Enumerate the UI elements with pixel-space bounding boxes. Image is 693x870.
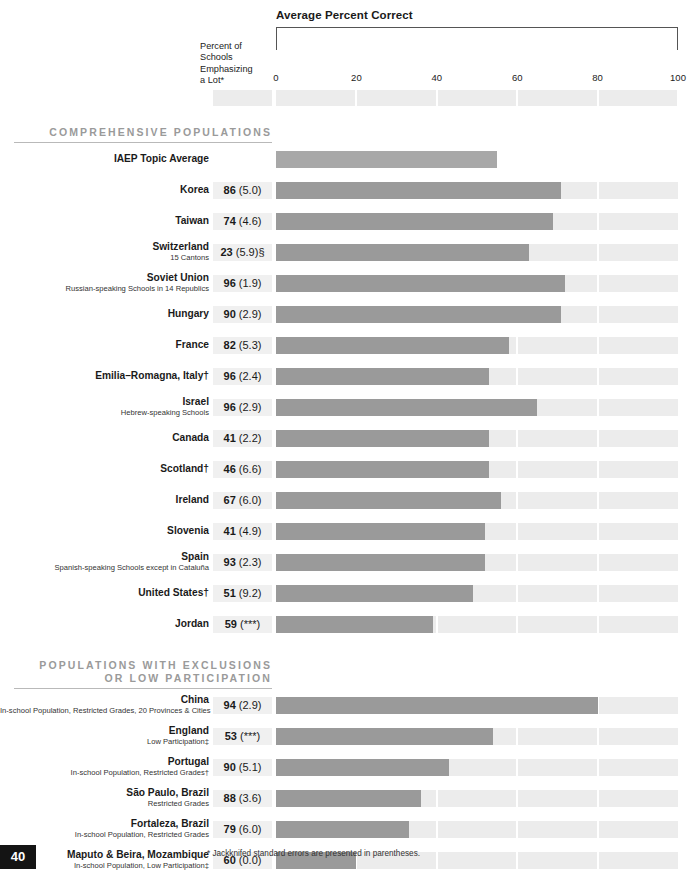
- chart-row[interactable]: Hungary90 (2.9): [0, 306, 693, 323]
- chart-row[interactable]: Fortaleza, BrazilIn-school Population, R…: [0, 821, 693, 838]
- track-gridline: [516, 368, 518, 385]
- section-rule: [14, 142, 272, 143]
- row-label-name: Spain: [0, 551, 209, 563]
- chart-row[interactable]: SpainSpanish-speaking Schools except in …: [0, 554, 693, 571]
- row-label-name: Hungary: [0, 308, 209, 320]
- row-label-name: Ireland: [0, 494, 209, 506]
- row-value-number: 53: [225, 730, 237, 742]
- chart-row[interactable]: EnglandLow Participation‡53 (***): [0, 728, 693, 745]
- row-value-cell: 74 (4.6): [213, 213, 272, 230]
- row-value-cell: 96 (2.4): [213, 368, 272, 385]
- row-label-sub: Low Participation‡: [0, 737, 209, 746]
- bar-track: [276, 244, 678, 261]
- bar: [276, 461, 489, 478]
- row-value-stderr: (2.9): [236, 308, 262, 320]
- track-gridline: [436, 821, 438, 838]
- chart-row[interactable]: IAEP Topic Average: [0, 151, 693, 168]
- chart-row[interactable]: Korea86 (5.0): [0, 182, 693, 199]
- chart-row[interactable]: United States†51 (9.2): [0, 585, 693, 602]
- chart-row[interactable]: ChinaIn-school Population, Restricted Gr…: [0, 697, 693, 714]
- chart-row[interactable]: Switzerland15 Cantons23 (5.9)§: [0, 244, 693, 261]
- row-value-cell: 90 (2.9): [213, 306, 272, 323]
- chart-row[interactable]: France82 (5.3): [0, 337, 693, 354]
- header-band-segment: [276, 90, 355, 106]
- track-gridline: [597, 616, 599, 633]
- track-gridline: [516, 461, 518, 478]
- chart-row[interactable]: PortugalIn-school Population, Restricted…: [0, 759, 693, 776]
- row-value-number: 67: [224, 494, 236, 506]
- bar-track: [276, 306, 678, 323]
- chart-row[interactable]: Ireland67 (6.0): [0, 492, 693, 509]
- row-value-number: 74: [224, 215, 236, 227]
- row-value-number: 51: [224, 587, 236, 599]
- row-value-cell: 67 (6.0): [213, 492, 272, 509]
- chart-row[interactable]: Taiwan74 (4.6): [0, 213, 693, 230]
- track-gridline: [597, 368, 599, 385]
- bar-track: [276, 697, 678, 714]
- axis-tick-label: 0: [273, 72, 278, 83]
- row-value-stderr: (6.6): [236, 463, 262, 475]
- chart-row[interactable]: Soviet UnionRussian-speaking Schools in …: [0, 275, 693, 292]
- bar: [276, 244, 529, 261]
- chart-row[interactable]: Emilia–Romagna, Italy†96 (2.4): [0, 368, 693, 385]
- row-label-name: Scotland†: [0, 463, 209, 475]
- chart-row[interactable]: IsraelHebrew-speaking Schools96 (2.9): [0, 399, 693, 416]
- row-label-sub: Hebrew-speaking Schools: [0, 408, 209, 417]
- axis-tick-label: 40: [432, 72, 443, 83]
- row-value-cell: 90 (5.1): [213, 759, 272, 776]
- track-gridline: [597, 585, 599, 602]
- row-label-name: Taiwan: [0, 215, 209, 227]
- row-value-cell: 53 (***): [213, 728, 272, 745]
- chart-row[interactable]: Canada41 (2.2): [0, 430, 693, 447]
- row-value-number: 90: [224, 761, 236, 773]
- track-gridline: [516, 616, 518, 633]
- header-band-segment: [599, 90, 677, 106]
- row-value-stderr: (5.1): [236, 761, 262, 773]
- row-label: United States†: [0, 587, 209, 599]
- track-gridline: [597, 213, 599, 230]
- row-label: São Paulo, BrazilRestricted Grades: [0, 787, 209, 808]
- row-label-name: Fortaleza, Brazil: [0, 818, 209, 830]
- row-label-name: Canada: [0, 432, 209, 444]
- track-gridline: [597, 461, 599, 478]
- track-gridline: [597, 728, 599, 745]
- track-gridline: [597, 492, 599, 509]
- track-gridline: [516, 852, 518, 869]
- row-label-name: Portugal: [0, 756, 209, 768]
- bar: [276, 182, 561, 199]
- track-gridline: [597, 244, 599, 261]
- row-value-cell: 82 (5.3): [213, 337, 272, 354]
- row-value-stderr: (6.0): [236, 494, 262, 506]
- row-label: Jordan: [0, 618, 209, 630]
- row-label-sub: In-school Population, Restricted Grades: [0, 830, 209, 839]
- bar-track: [276, 790, 678, 807]
- bar-track: [276, 821, 678, 838]
- row-value-stderr: (2.4): [236, 370, 262, 382]
- chart-row[interactable]: São Paulo, BrazilRestricted Grades88 (3.…: [0, 790, 693, 807]
- row-label: Ireland: [0, 494, 209, 506]
- bar-track: [276, 430, 678, 447]
- row-value-number: 96: [224, 370, 236, 382]
- row-value-stderr: (9.2): [236, 587, 262, 599]
- row-value-cell: 79 (6.0): [213, 821, 272, 838]
- row-label: Taiwan: [0, 215, 209, 227]
- track-gridline: [597, 523, 599, 540]
- bar: [276, 306, 561, 323]
- track-gridline: [516, 585, 518, 602]
- bar-track: [276, 337, 678, 354]
- header-band-segment: [357, 90, 435, 106]
- row-value-number: 46: [224, 463, 236, 475]
- track-gridline: [516, 492, 518, 509]
- row-label-name: Korea: [0, 184, 209, 196]
- track-gridline: [597, 337, 599, 354]
- bar: [276, 275, 565, 292]
- row-value-stderr: (2.2): [236, 432, 262, 444]
- section-rule: [14, 688, 272, 689]
- row-label: Canada: [0, 432, 209, 444]
- track-gridline: [597, 759, 599, 776]
- chart-row[interactable]: Scotland†46 (6.6): [0, 461, 693, 478]
- chart-row[interactable]: Slovenia41 (4.9): [0, 523, 693, 540]
- bar: [276, 585, 473, 602]
- track-gridline: [436, 616, 438, 633]
- chart-row[interactable]: Jordan59 (***): [0, 616, 693, 633]
